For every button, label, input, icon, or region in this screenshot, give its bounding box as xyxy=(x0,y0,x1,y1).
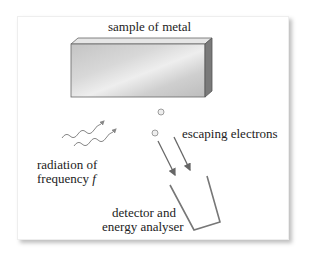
radiation-label-line1: radiation of xyxy=(37,158,97,172)
electron-arrow xyxy=(158,141,175,175)
detector-label-line1: detector and xyxy=(112,206,176,220)
electron-dot xyxy=(158,109,164,115)
metal-sample xyxy=(71,38,212,97)
detector-label-line2: energy analyser xyxy=(102,220,184,234)
electron-arrow xyxy=(174,137,190,170)
radiation-label-line2: frequency f xyxy=(37,172,96,186)
frequency-symbol: f xyxy=(92,171,96,186)
radiation-wave-icon xyxy=(62,121,104,138)
metal-label: sample of metal xyxy=(108,20,191,34)
electron-dot xyxy=(152,130,158,136)
electrons-label: escaping electrons xyxy=(182,127,278,141)
